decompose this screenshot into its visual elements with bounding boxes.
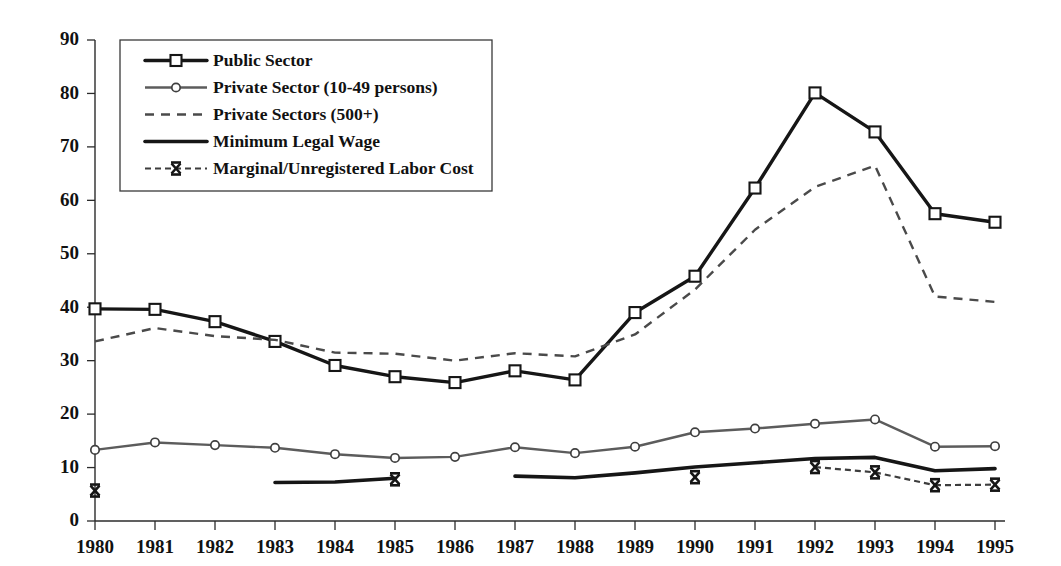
data-point-diamond	[691, 428, 699, 436]
legend-label: Minimum Legal Wage	[213, 131, 380, 151]
data-point-diamond	[751, 424, 759, 432]
data-point-square	[390, 371, 401, 382]
legend-label: Public Sector	[213, 50, 313, 70]
data-point-diamond	[151, 438, 159, 446]
data-point-diamond	[91, 446, 99, 454]
line-chart: 0102030405060708090 19801981198219831984…	[0, 0, 1061, 566]
y-tick-label: 60	[60, 189, 79, 210]
data-point-diamond	[931, 443, 939, 451]
data-point-diamond	[451, 453, 459, 461]
data-point-square	[750, 183, 761, 194]
data-point-diamond	[271, 444, 279, 452]
x-tick-label: 1983	[256, 536, 294, 557]
data-point-square	[510, 365, 521, 376]
data-point-diamond	[511, 443, 519, 451]
y-tick-label: 80	[60, 82, 79, 103]
y-tick-label: 30	[60, 349, 79, 370]
x-tick-label: 1989	[616, 536, 654, 557]
legend-label: Private Sector (10-49 persons)	[213, 77, 438, 97]
y-tick-label: 50	[60, 242, 79, 263]
data-point-square	[330, 360, 341, 371]
x-tick-label: 1992	[796, 536, 834, 557]
data-point-square	[990, 217, 1001, 228]
data-point-diamond	[211, 441, 219, 449]
x-tick-label: 1986	[436, 536, 474, 557]
x-tick-label: 1990	[676, 536, 714, 557]
data-point-square	[570, 374, 581, 385]
data-point-diamond	[331, 450, 339, 458]
data-point-square	[90, 303, 101, 314]
y-tick-label: 20	[60, 402, 79, 423]
x-tick-label: 1981	[136, 536, 174, 557]
legend-swatch-square	[171, 55, 182, 66]
x-tick-label: 1995	[976, 536, 1014, 557]
y-tick-label: 0	[70, 509, 80, 530]
legend-label: Private Sectors (500+)	[213, 104, 379, 124]
data-point-square	[150, 304, 161, 315]
data-point-square	[450, 377, 461, 388]
x-tick-label: 1987	[496, 536, 535, 557]
y-tick-label: 70	[60, 135, 79, 156]
data-point-diamond	[811, 420, 819, 428]
data-point-square	[810, 87, 821, 98]
data-point-diamond	[631, 443, 639, 451]
data-point-square	[270, 336, 281, 347]
chart-container: 0102030405060708090 19801981198219831984…	[0, 0, 1061, 566]
x-tick-label: 1982	[196, 536, 234, 557]
data-point-square	[210, 316, 221, 327]
data-point-diamond	[871, 415, 879, 423]
data-point-diamond	[571, 449, 579, 457]
data-point-diamond	[991, 442, 999, 450]
y-tick-label: 10	[60, 456, 79, 477]
x-tick-label: 1985	[376, 536, 414, 557]
x-tick-label: 1980	[76, 536, 114, 557]
data-point-square	[690, 271, 701, 282]
x-tick-label: 1988	[556, 536, 594, 557]
data-point-square	[870, 126, 881, 137]
data-point-square	[930, 208, 941, 219]
y-tick-label: 40	[60, 296, 79, 317]
chart-legend: Public SectorPrivate Sector (10-49 perso…	[120, 40, 492, 191]
legend-swatch-diamond	[172, 83, 180, 91]
data-point-diamond	[391, 454, 399, 462]
data-point-square	[630, 307, 641, 318]
x-tick-label: 1993	[856, 536, 894, 557]
y-tick-label: 90	[60, 28, 79, 49]
x-tick-label: 1984	[316, 536, 355, 557]
x-tick-label: 1991	[736, 536, 774, 557]
legend-label: Marginal/Unregistered Labor Cost	[213, 158, 474, 178]
x-tick-label: 1994	[916, 536, 955, 557]
